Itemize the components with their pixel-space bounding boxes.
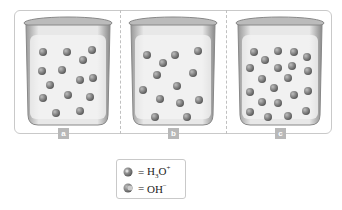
hydroxide-formula: OH− — [147, 182, 167, 195]
legend-item-hydronium: = H3O+ — [122, 165, 170, 179]
legend-item-hydroxide: = OH− — [122, 181, 167, 195]
legend: = H3O+ = OH− — [116, 159, 186, 199]
panel-label-c: c — [275, 128, 286, 139]
panel-label-b: b — [168, 128, 179, 139]
beaker-c — [232, 15, 328, 127]
beaker-b — [125, 15, 221, 127]
hydronium-formula: H3O+ — [147, 164, 170, 180]
panel-divider — [120, 10, 121, 134]
panel-divider — [226, 10, 227, 134]
panel-label-a: a — [58, 128, 69, 139]
hydronium-ion-icon — [122, 167, 134, 177]
beaker-a — [20, 15, 116, 127]
hydroxide-ion-icon — [122, 183, 134, 193]
